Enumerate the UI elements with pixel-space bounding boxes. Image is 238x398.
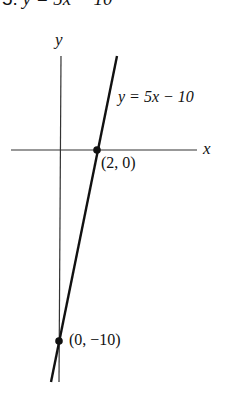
- x-intercept-point: [93, 146, 101, 154]
- line-label: y = 5x − 10: [118, 88, 194, 106]
- y-axis-label: y: [55, 30, 63, 50]
- y-intercept-point: [55, 337, 63, 345]
- y-intercept-label: (0, −10): [69, 331, 121, 349]
- x-intercept-label: (2, 0): [101, 154, 136, 172]
- x-axis-label: x: [203, 139, 211, 159]
